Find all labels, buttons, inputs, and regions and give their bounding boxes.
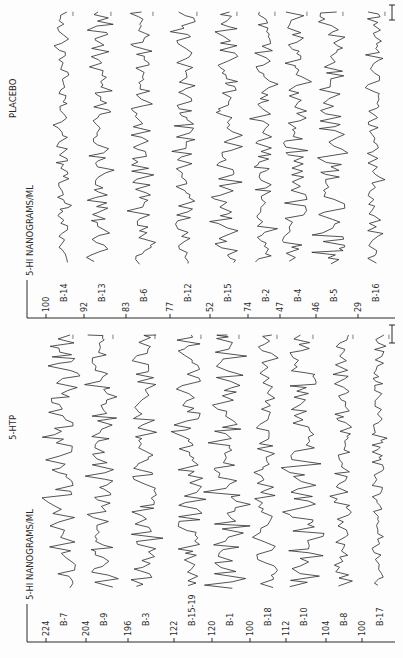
baseline-value: 112 <box>282 621 291 636</box>
baseline-value: 47 <box>276 302 285 312</box>
subject-label: B-7 <box>60 613 69 626</box>
baseline-value: 100 <box>246 621 255 636</box>
subject-label: B-13 <box>98 283 107 302</box>
baseline-value: 196 <box>124 621 133 636</box>
baseline-value: 92 <box>80 302 89 312</box>
subject-label: B-15 <box>224 283 233 302</box>
subject-label: B-2 <box>262 289 271 302</box>
subject-trace <box>85 335 119 587</box>
subject-trace <box>312 12 348 264</box>
trace-end-marker: I <box>196 10 198 17</box>
trace-end-marker: I <box>276 333 278 340</box>
placebo-title: PLACEBO <box>8 78 18 118</box>
subject-label: B-14 <box>60 283 69 302</box>
subject-trace <box>210 12 243 263</box>
trace-end-marker: I <box>274 10 276 17</box>
subject-trace <box>127 12 156 264</box>
placebo-subject-labels: B-14B-13B-6B-12B-15B-2B-4B-5B-16 <box>60 283 381 302</box>
trace-end-marker: I <box>238 333 240 340</box>
subject-label: B-15-19 <box>188 594 197 626</box>
baseline-value: 46 <box>312 302 321 312</box>
subject-label: B-18 <box>264 607 273 626</box>
subject-label: B-9 <box>100 613 109 626</box>
baseline-value: 52 <box>206 302 215 312</box>
trace-end-marker: I <box>352 333 354 340</box>
subject-trace <box>281 335 324 587</box>
placebo-baseline-values: 1009283775274474629 <box>42 297 363 318</box>
subject-label: B-10 <box>300 607 309 626</box>
subject-trace <box>42 335 80 588</box>
trace-end-marker: I <box>236 10 238 17</box>
rotated-trace-figure: 5-HI NANOGRAMS/ML PLACEBO 10092837752744… <box>0 0 403 658</box>
baseline-value: 100 <box>358 621 367 636</box>
baseline-value: 77 <box>166 302 175 312</box>
baseline-value: 204 <box>82 621 91 636</box>
trace-end-marker: I <box>154 333 156 340</box>
subject-label: B-4 <box>294 289 303 302</box>
htp-baseline-values: 224204196122120100112104100 <box>42 621 367 642</box>
baseline-value: 83 <box>122 302 131 312</box>
scale-bar-top <box>389 5 395 20</box>
trace-end-marker: I <box>72 10 74 17</box>
subject-trace <box>170 12 195 264</box>
trace-end-marker: I <box>152 10 154 17</box>
subject-label: B-12 <box>184 283 193 302</box>
trace-end-marker: I <box>342 10 344 17</box>
htp-traces: IIIIIIIII <box>42 333 390 588</box>
baseline-value: 104 <box>322 621 331 636</box>
subject-trace <box>282 12 311 261</box>
baseline-value: 122 <box>170 621 179 636</box>
baseline-value: 74 <box>244 302 253 312</box>
placebo-traces: IIIIIIIII <box>53 10 386 264</box>
subject-label: B-16 <box>372 283 381 302</box>
subject-label: B-17 <box>376 607 385 626</box>
subject-trace <box>53 12 72 262</box>
placebo-axis-label: 5-HI NANOGRAMS/ML <box>25 185 35 276</box>
subject-label: B-6 <box>140 289 149 302</box>
trace-end-marker: I <box>384 10 386 17</box>
subject-trace <box>204 335 251 588</box>
baseline-value: 224 <box>42 621 51 636</box>
subject-trace <box>253 335 279 588</box>
htp-panel: 5-HI NANOGRAMS/ML 5-HTP 2242041961221201… <box>8 333 395 642</box>
subject-trace <box>171 335 206 586</box>
trace-end-marker: I <box>306 10 308 17</box>
subject-trace <box>365 12 385 263</box>
trace-end-marker: I <box>72 333 74 340</box>
trace-end-marker: I <box>112 333 114 340</box>
subject-trace <box>250 12 279 262</box>
subject-trace <box>330 335 353 586</box>
subject-trace <box>372 335 387 585</box>
subject-label: B-8 <box>340 613 349 626</box>
baseline-value: 29 <box>354 302 363 312</box>
subject-trace <box>131 335 163 586</box>
baseline-value: 120 <box>208 621 217 636</box>
subject-label: B-5 <box>330 289 339 302</box>
htp-axis-label: 5-HI NANOGRAMS/ML <box>25 509 35 600</box>
baseline-value: 100 <box>42 297 51 312</box>
placebo-panel: 5-HI NANOGRAMS/ML PLACEBO 10092837752744… <box>8 10 395 318</box>
htp-title: 5-HTP <box>8 415 18 440</box>
subject-label: B-3 <box>142 613 151 626</box>
scale-bar-middle <box>389 325 395 343</box>
trace-end-marker: I <box>312 333 314 340</box>
htp-subject-labels: B-7B-9B-3B-15-19B-1B-18B-10B-8B-17 <box>60 594 385 626</box>
trace-end-marker: I <box>200 333 202 340</box>
trace-end-marker: I <box>388 333 390 340</box>
subject-trace <box>87 12 115 262</box>
trace-end-marker: I <box>110 10 112 17</box>
subject-label: B-1 <box>226 613 235 626</box>
